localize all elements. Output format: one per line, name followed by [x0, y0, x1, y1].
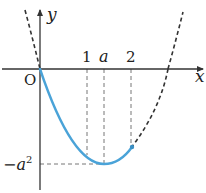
- tick-label-2: 2: [126, 48, 136, 66]
- arc-endpoint: [130, 145, 134, 149]
- min-value-label: −a2: [3, 154, 32, 174]
- parabola-dashed-right: [131, 12, 183, 148]
- origin-label: O: [24, 71, 36, 89]
- tick-label-a: a: [99, 47, 109, 66]
- min-value-exponent: 2: [26, 154, 32, 165]
- guide-lines: [40, 69, 131, 164]
- min-value-base: −a: [3, 155, 26, 174]
- highlighted-arc: [40, 69, 132, 164]
- parabola-diagram: y x O 1 a 2 −a2: [0, 0, 206, 193]
- tick-label-1: 1: [82, 48, 92, 66]
- x-axis-label: x: [195, 66, 205, 86]
- y-axis-label: y: [46, 4, 57, 24]
- parabola-dashed-left: [25, 10, 40, 69]
